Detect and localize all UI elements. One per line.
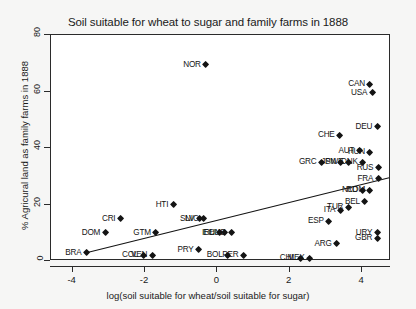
point-marker-icon xyxy=(366,149,373,156)
chart-figure: Soil suitable for wheat to sugar and fam… xyxy=(0,0,416,309)
point-marker-icon xyxy=(240,252,247,259)
x-tick-label: -4 xyxy=(57,274,87,285)
point-marker-icon xyxy=(375,164,382,171)
point-label: DOM xyxy=(82,227,101,238)
y-tick-label-text: 60 xyxy=(32,83,42,93)
x-tick-label: 4 xyxy=(346,274,376,285)
y-tick-label-text: 20 xyxy=(32,196,42,206)
point-label: USA xyxy=(351,87,367,98)
x-tick-label: 2 xyxy=(274,274,304,285)
point-label: GTM xyxy=(133,227,151,238)
point-label: HND xyxy=(209,227,226,238)
point-label: BRA xyxy=(65,247,81,258)
point-marker-icon xyxy=(336,132,343,139)
point-marker-icon xyxy=(149,252,156,259)
y-tick-label: 60 xyxy=(0,84,42,94)
x-axis-title: log(soil suitable for wheat/soil suitabl… xyxy=(0,290,416,301)
point-label: PRY xyxy=(177,244,193,255)
point-marker-icon xyxy=(366,187,373,194)
point-marker-icon xyxy=(306,255,313,262)
y-tick-label-text: 0 xyxy=(34,255,44,260)
y-tick-label: 20 xyxy=(0,197,42,207)
point-label: TUR xyxy=(327,201,343,212)
point-label: NIC xyxy=(185,213,199,224)
point-label: NOR xyxy=(183,59,201,70)
point-label: MEX xyxy=(287,252,304,263)
point-marker-icon xyxy=(83,249,90,256)
point-marker-icon xyxy=(333,240,340,247)
y-tick-label-text: 40 xyxy=(32,140,42,150)
x-tick-label: -2 xyxy=(129,274,159,285)
point-label: GRC xyxy=(299,156,317,167)
point-label: ROM xyxy=(347,184,366,195)
point-marker-icon xyxy=(170,201,177,208)
x-axis-line xyxy=(50,266,390,267)
point-marker-icon xyxy=(361,198,368,205)
y-tick-label: 0 xyxy=(0,253,42,263)
point-label: ESP xyxy=(308,215,324,226)
point-marker-icon xyxy=(117,215,124,222)
point-label: ARG xyxy=(315,238,332,249)
point-label: GBR xyxy=(355,232,372,243)
point-label: CRI xyxy=(102,213,116,224)
point-marker-icon xyxy=(375,175,382,182)
x-tick xyxy=(72,266,73,272)
point-label: FRA xyxy=(358,173,374,184)
point-marker-icon xyxy=(369,89,376,96)
y-tick-label-text: 80 xyxy=(32,27,42,37)
y-tick xyxy=(44,260,50,261)
point-marker-icon xyxy=(227,229,234,236)
chart-title: Soil suitable for wheat to sugar and fam… xyxy=(0,16,416,28)
point-marker-icon xyxy=(202,61,209,68)
point-label: RUS xyxy=(357,162,374,173)
point-marker-icon xyxy=(200,215,207,222)
point-marker-icon xyxy=(374,235,381,242)
y-tick-label: 80 xyxy=(0,27,42,37)
y-tick-label: 40 xyxy=(0,140,42,150)
x-tick xyxy=(144,266,145,272)
point-label: CHE xyxy=(318,129,335,140)
point-marker-icon xyxy=(195,246,202,253)
point-marker-icon xyxy=(152,229,159,236)
x-tick xyxy=(361,266,362,272)
point-label: BEL xyxy=(345,196,360,207)
point-label: BOL xyxy=(207,249,223,260)
point-label: DNK xyxy=(341,156,358,167)
plot-frame: BRADOMCRICOLVENGTMHTISLVNICPRYIRLECUHNDB… xyxy=(50,34,390,260)
plot-area: BRADOMCRICOLVENGTMHTISLVNICPRYIRLECUHNDB… xyxy=(51,35,389,259)
x-tick-label: 0 xyxy=(201,274,231,285)
point-label: VEN xyxy=(131,249,147,260)
x-tick xyxy=(289,266,290,272)
point-label: DEU xyxy=(356,121,373,132)
point-marker-icon xyxy=(102,229,109,236)
point-label: HTI xyxy=(156,199,169,210)
point-marker-icon xyxy=(374,123,381,130)
point-label: PER xyxy=(222,249,238,260)
x-tick xyxy=(216,266,217,272)
point-marker-icon xyxy=(325,218,332,225)
point-marker-icon xyxy=(366,81,373,88)
